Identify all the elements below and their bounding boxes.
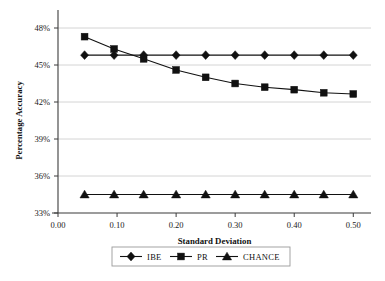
legend-label-ibe[interactable]: IBE <box>147 252 162 262</box>
datapoint-ibe-6 <box>261 51 269 60</box>
y-tick-label-42%: 42% <box>34 97 50 107</box>
legend-marker-pr <box>178 253 185 260</box>
x-tick-label-0.00: 0.00 <box>51 220 66 230</box>
y-tick-label-48%: 48% <box>34 23 50 33</box>
datapoint-pr-9 <box>350 91 357 98</box>
x-tick-label-0.30: 0.30 <box>228 220 243 230</box>
datapoint-pr-0 <box>81 33 88 40</box>
y-tick-label-45%: 45% <box>34 60 50 70</box>
datapoint-pr-8 <box>320 89 327 96</box>
datapoint-ibe-9 <box>349 51 357 60</box>
datapoint-ibe-5 <box>231 51 239 60</box>
legend-label-pr[interactable]: PR <box>197 252 208 262</box>
x-tick-label-0.10: 0.10 <box>110 220 125 230</box>
y-axis-title: Percentage Accuracy <box>14 81 24 160</box>
x-tick-label-0.40: 0.40 <box>287 220 302 230</box>
datapoint-ibe-4 <box>202 51 210 60</box>
chart-container: 33%36%39%42%45%48%0.000.100.200.300.400.… <box>0 0 385 281</box>
y-tick-label-39%: 39% <box>34 134 50 144</box>
x-tick-label-0.20: 0.20 <box>169 220 184 230</box>
datapoint-pr-2 <box>140 55 147 62</box>
datapoint-ibe-3 <box>172 51 180 60</box>
line-chart: 33%36%39%42%45%48%0.000.100.200.300.400.… <box>0 0 385 281</box>
datapoint-pr-3 <box>173 67 180 74</box>
datapoint-pr-1 <box>111 46 118 53</box>
datapoint-ibe-8 <box>320 51 328 60</box>
y-tick-label-33%: 33% <box>34 208 50 218</box>
datapoint-ibe-0 <box>81 51 89 60</box>
datapoint-ibe-7 <box>290 51 298 60</box>
datapoint-pr-4 <box>202 74 209 81</box>
x-tick-label-0.50: 0.50 <box>346 220 361 230</box>
legend-label-chance[interactable]: CHANCE <box>243 252 280 262</box>
datapoint-pr-7 <box>291 86 298 93</box>
y-tick-label-36%: 36% <box>34 171 50 181</box>
x-axis-title: Standard Deviation <box>178 236 252 246</box>
datapoint-pr-5 <box>232 80 239 87</box>
datapoint-pr-6 <box>261 84 268 91</box>
